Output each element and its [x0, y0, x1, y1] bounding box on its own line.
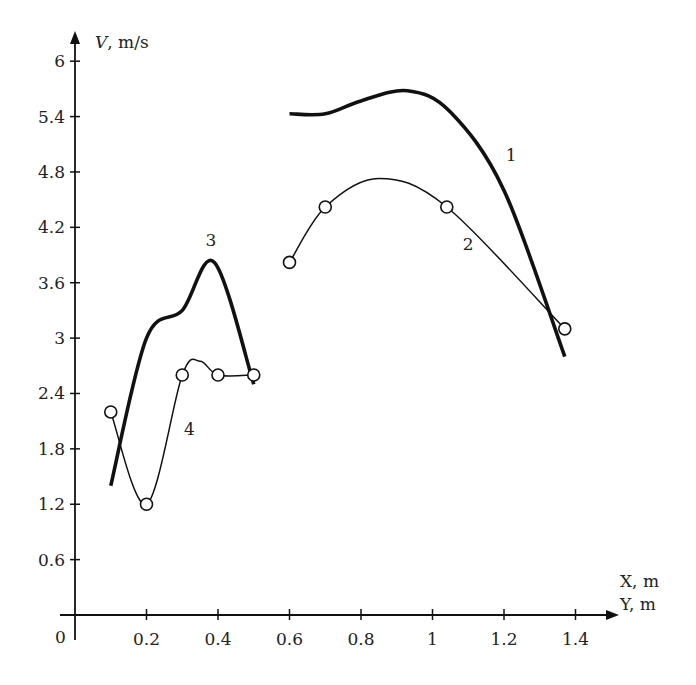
x-tick-label: 0.4: [204, 629, 231, 649]
marker-2: [559, 323, 571, 335]
x-tick-label: 1.2: [490, 629, 517, 649]
y-tick-label: 0.6: [38, 550, 65, 570]
y-axis-arrow: [70, 31, 80, 44]
labels: V, m/s X, m Y, m 0 0.61.21.82.433.64.24.…: [38, 32, 659, 649]
curve-label-3: 3: [205, 230, 216, 250]
marker-2: [441, 201, 453, 213]
marker-4: [176, 369, 188, 381]
marker-4: [248, 369, 260, 381]
x-axis-arrow: [606, 610, 619, 620]
y-tick-label: 1.8: [38, 439, 65, 459]
x-tick-label: 0.2: [133, 629, 160, 649]
chart: V, m/s X, m Y, m 0 0.61.21.82.433.64.24.…: [0, 0, 696, 685]
y-tick-label: 3: [54, 328, 65, 348]
x-tick-label: 1.4: [562, 629, 589, 649]
curve-label-1: 1: [506, 145, 517, 165]
curve-label-4: 4: [184, 419, 195, 439]
y-tick-label: 4.2: [38, 217, 65, 237]
y-tick-label: 6: [54, 51, 65, 71]
y-tick-label: 2.4: [38, 383, 65, 403]
origin-label: 0: [55, 627, 66, 647]
y-tick-label: 5.4: [38, 107, 65, 127]
x-tick-label: 0.8: [347, 629, 374, 649]
x-tick-label: 1: [427, 629, 438, 649]
curve-label-2: 2: [463, 234, 474, 254]
marker-4: [212, 369, 224, 381]
marker-2: [319, 201, 331, 213]
marker-4: [105, 406, 117, 418]
x-axis-label: X, m: [620, 571, 659, 591]
y-tick-label: 3.6: [38, 273, 65, 293]
marker-2: [284, 256, 296, 268]
axes: [60, 31, 619, 640]
markers: [105, 201, 571, 510]
marker-4: [141, 498, 153, 510]
y-tick-label: 4.8: [38, 162, 65, 182]
x-axis-label-secondary: Y, m: [619, 594, 656, 614]
y-tick-label: 1.2: [38, 494, 65, 514]
curves: [111, 90, 565, 504]
y-axis-label: V, m/s: [95, 32, 149, 52]
curve-1: [290, 90, 565, 356]
curve-2: [290, 178, 565, 329]
x-tick-label: 0.6: [276, 629, 303, 649]
